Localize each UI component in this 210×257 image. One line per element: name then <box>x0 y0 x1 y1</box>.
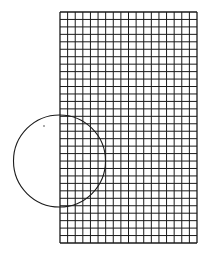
diagram-canvas <box>0 0 210 257</box>
center-dot <box>43 125 44 126</box>
square-grid <box>60 12 197 243</box>
